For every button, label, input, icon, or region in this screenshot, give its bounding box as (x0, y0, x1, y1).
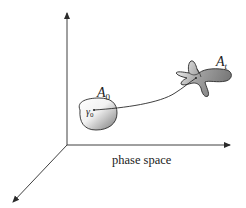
label-at: At (215, 54, 228, 71)
phase-space-diagram: A0 At γ0 phase space (0, 0, 246, 208)
end-point (195, 77, 197, 79)
initial-region-a0 (79, 98, 117, 130)
label-a0: A0 (96, 85, 111, 102)
depth-axis (13, 145, 67, 202)
axis-label-phase-space: phase space (112, 153, 172, 167)
